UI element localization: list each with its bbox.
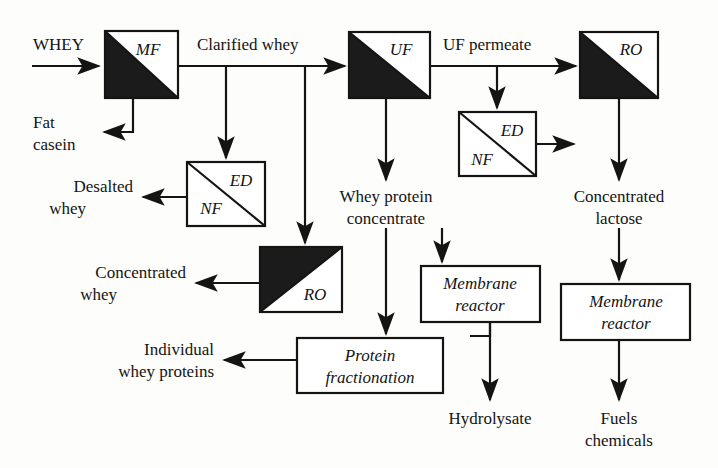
stream-label-lactose-line2: lactose bbox=[595, 209, 642, 228]
unit-label-uf: UF bbox=[390, 40, 413, 59]
unit-box-protein-fractionation[interactable]: Protein fractionation bbox=[297, 338, 443, 393]
stream-label-lactose-line1: Concentrated bbox=[574, 187, 665, 206]
unit-label-ro-bottom: RO bbox=[303, 285, 327, 304]
flow-mf-retentate bbox=[104, 98, 133, 132]
whey-process-flow-diagram: MF UF RO ED NF bbox=[0, 0, 718, 468]
unit-box-ro-bottom[interactable]: RO bbox=[260, 247, 342, 312]
protein-fractionation-line2: fractionation bbox=[326, 368, 415, 387]
unit-label-nf-left: NF bbox=[199, 199, 222, 218]
membrane-reactor-2-line2: reactor bbox=[601, 314, 651, 333]
stream-label-fuels-line2: chemicals bbox=[585, 431, 653, 450]
unit-box-uf[interactable]: UF bbox=[349, 32, 430, 98]
unit-box-ed-nf-right[interactable]: ED NF bbox=[459, 112, 536, 176]
stream-label-fuels-line1: Fuels bbox=[601, 409, 638, 428]
unit-box-ro-top[interactable]: RO bbox=[580, 32, 658, 98]
stream-label-casein: casein bbox=[33, 135, 76, 154]
stream-label-wpc-line2: concentrate bbox=[347, 209, 425, 228]
membrane-reactor-1-line2: reactor bbox=[455, 296, 505, 315]
membrane-reactor-2-line1: Membrane bbox=[588, 292, 663, 311]
flow-membrane-reactor-1-outlet bbox=[470, 322, 490, 400]
unit-label-mf: MF bbox=[135, 40, 161, 59]
stream-label-whey: WHEY bbox=[33, 35, 84, 54]
unit-box-mf[interactable]: MF bbox=[105, 31, 178, 98]
diagram-page: MF UF RO ED NF bbox=[0, 0, 718, 468]
stream-label-wpc-line1: Whey protein bbox=[340, 187, 433, 206]
unit-box-ed-nf-left[interactable]: ED NF bbox=[187, 162, 265, 226]
stream-label-hydrolysate: Hydrolysate bbox=[448, 409, 531, 428]
stream-label-desalted-whey-line2: whey bbox=[49, 199, 86, 218]
unit-label-ed-right: ED bbox=[500, 121, 524, 140]
stream-label-desalted-whey-line1: Desalted bbox=[74, 177, 134, 196]
stream-label-fat: Fat bbox=[33, 113, 55, 132]
stream-label-clarified-whey: Clarified whey bbox=[197, 35, 299, 54]
unit-label-ed-left: ED bbox=[229, 171, 253, 190]
unit-box-membrane-reactor-2[interactable]: Membrane reactor bbox=[561, 284, 690, 340]
stream-label-individual-line1: Individual bbox=[144, 340, 214, 359]
unit-label-nf-right: NF bbox=[470, 150, 493, 169]
stream-label-concentrated-whey-line2: whey bbox=[80, 285, 117, 304]
unit-box-membrane-reactor-1[interactable]: Membrane reactor bbox=[421, 266, 540, 322]
stream-label-uf-permeate: UF permeate bbox=[443, 35, 531, 54]
stream-label-individual-line2: whey proteins bbox=[118, 362, 214, 381]
flow-uf-permeate bbox=[430, 66, 576, 108]
protein-fractionation-line1: Protein bbox=[344, 346, 395, 365]
membrane-reactor-1-line1: Membrane bbox=[442, 274, 517, 293]
stream-label-concentrated-whey-line1: Concentrated bbox=[95, 263, 186, 282]
unit-label-ro-top: RO bbox=[619, 40, 643, 59]
